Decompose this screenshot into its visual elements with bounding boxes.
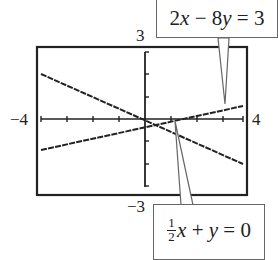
eq-var-x: x bbox=[177, 218, 186, 243]
viewing-window-frame bbox=[37, 47, 247, 195]
eq-coef-b: 8 bbox=[212, 6, 223, 31]
eq-coef-a: 2 bbox=[170, 6, 181, 31]
eq-var-y: y bbox=[222, 6, 231, 31]
callout-top-pointer bbox=[218, 38, 229, 104]
eq-rhs: = 0 bbox=[218, 218, 251, 243]
fraction-numerator: 1 bbox=[168, 217, 175, 229]
y-max-label: 3 bbox=[136, 27, 145, 44]
fraction-denominator: 2 bbox=[168, 231, 175, 243]
callout-equation-2x-minus-8y: 2x − 8y = 3 bbox=[156, 0, 278, 38]
x-min-label: −4 bbox=[10, 111, 28, 128]
eq-var-x: x bbox=[180, 6, 189, 31]
eq-rhs: = 3 bbox=[232, 6, 265, 31]
line-2x-minus-8y bbox=[41, 106, 243, 150]
callout-bottom-pointer bbox=[175, 121, 193, 205]
eq-op: + bbox=[186, 218, 208, 243]
callout-equation-half-x-plus-y: 1 2 x + y = 0 bbox=[153, 204, 265, 260]
eq-op: − bbox=[189, 6, 211, 31]
y-min-label: −3 bbox=[127, 198, 145, 215]
fraction-one-half: 1 2 bbox=[167, 217, 176, 243]
eq-var-y: y bbox=[209, 218, 218, 243]
x-max-label: 4 bbox=[252, 111, 261, 128]
